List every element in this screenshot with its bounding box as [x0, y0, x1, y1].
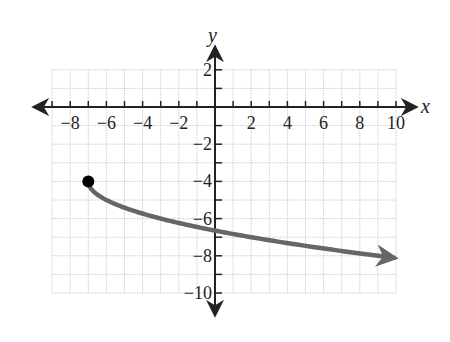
curve: [82, 175, 394, 257]
y-tick-label: −2: [193, 134, 212, 154]
graph: −8−6−4−22468102−2−4−6−8−10 x y: [0, 0, 450, 342]
curve-path: [88, 181, 394, 257]
y-tick-label: −10: [184, 283, 212, 303]
x-tick-label: −8: [61, 113, 80, 133]
x-tick-label: −2: [169, 113, 188, 133]
x-tick-label: −4: [133, 113, 152, 133]
y-tick-label: −8: [193, 246, 212, 266]
x-tick-label: 8: [355, 113, 364, 133]
y-tick-label: −4: [193, 171, 212, 191]
x-tick-label: 2: [247, 113, 256, 133]
ticks: [52, 70, 396, 293]
x-tick-label: −6: [97, 113, 116, 133]
y-tick-label: 2: [203, 60, 212, 80]
x-axis-label: x: [420, 95, 430, 117]
closed-endpoint: [82, 175, 94, 187]
y-axis-label: y: [206, 24, 217, 47]
x-tick-label: 6: [319, 113, 328, 133]
x-tick-label: 4: [283, 113, 292, 133]
x-tick-label: 10: [387, 113, 405, 133]
grid: [52, 70, 396, 293]
